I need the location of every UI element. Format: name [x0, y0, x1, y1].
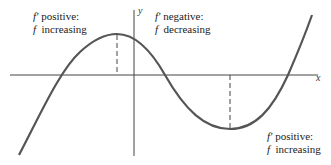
annotation-left: f′ positive: f increasing: [33, 10, 87, 36]
annotation-right: f′ positive: f increasing: [267, 130, 321, 156]
x-axis-label: x: [316, 72, 320, 83]
y-axis-label: y: [138, 5, 142, 16]
annotation-middle: f′ negative: f decreasing: [155, 10, 211, 36]
